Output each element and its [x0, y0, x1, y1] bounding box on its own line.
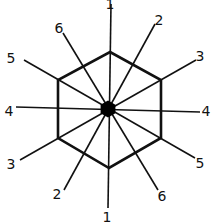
hexagon-axis-diagram: 123456123456: [0, 0, 214, 223]
axis-label: 3: [196, 48, 205, 64]
axis-label: 6: [55, 20, 64, 36]
axis-label: 1: [106, 0, 115, 12]
axis-label: 5: [196, 155, 205, 171]
axis-label: 4: [202, 103, 211, 119]
axis-label: 6: [158, 188, 167, 204]
axis-label: 2: [155, 12, 164, 28]
axis-label: 1: [103, 209, 112, 223]
axis-label: 3: [7, 156, 16, 172]
axis-label: 2: [53, 186, 62, 202]
axis-label: 4: [5, 103, 14, 119]
axis-label: 5: [7, 50, 16, 66]
